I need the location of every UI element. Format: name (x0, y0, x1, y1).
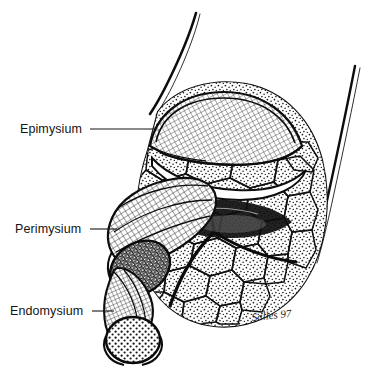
label-epimysium-text: Epimysium (20, 122, 82, 136)
muscle-anatomy-figure: Epimysium Perimysium Endomysium Salles 9… (0, 0, 385, 385)
label-endomysium-text: Endomysium (10, 304, 83, 318)
label-perimysium-text: Perimysium (15, 222, 81, 236)
